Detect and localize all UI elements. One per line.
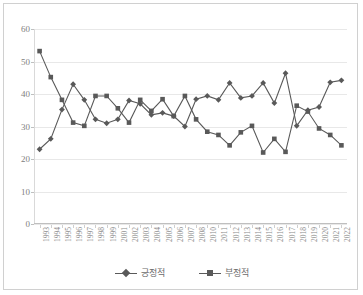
x-axis-tick-label: 2013 [244,227,252,242]
y-axis-tick-label: 20 [21,155,30,164]
y-axis-tick-label: 10 [21,187,30,196]
x-axis-tick-label: 1993 [43,227,51,242]
legend-item-negative[interactable]: 부정적 [199,268,249,278]
series-layer [34,29,347,224]
data-point-diamond [216,97,222,103]
diamond-marker-icon [115,269,137,278]
x-axis-tick-label: 1994 [54,227,62,242]
x-axis-tick-mark [218,225,219,228]
x-axis-tick-label: 2001 [121,227,129,242]
x-axis-tick-label: 2022 [344,227,352,242]
x-axis-tick-label: 2005 [166,227,174,242]
series-positive [37,70,345,152]
x-axis-tick-label: 1999 [110,227,118,242]
chart-frame: 0102030405060 19931994199519961997199819… [3,3,358,290]
x-axis-tick-label: 2011 [221,227,229,242]
x-axis-tick-mark [84,225,85,228]
data-point-square [37,49,42,54]
x-axis-tick-label: 2004 [154,227,162,242]
y-axis-tick-label: 50 [21,57,30,66]
x-axis-tick-mark [95,225,96,228]
data-point-square [283,150,288,155]
x-axis-tick-mark [252,225,253,228]
x-axis-tick-mark [163,225,164,228]
data-point-square [160,97,165,102]
data-point-square [272,137,277,142]
data-point-square [60,98,65,103]
series-negative [37,49,343,155]
data-point-square [93,94,98,99]
x-axis-tick-label: 2012 [233,227,241,242]
x-axis-tick-mark [207,225,208,228]
y-axis-tick-label: 0 [26,220,31,229]
data-point-square [261,150,266,155]
x-axis-tick-mark [73,225,74,228]
x-axis-tick-mark [319,225,320,228]
x-axis-tick-label: 2008 [199,227,207,242]
data-point-diamond [115,116,121,122]
data-point-square [250,124,255,129]
data-point-diamond [104,120,110,126]
x-axis-tick-label: 2021 [333,227,341,242]
data-point-square [71,120,76,125]
x-axis-tick-mark [230,225,231,228]
data-point-diamond [93,116,99,122]
data-point-square [149,109,154,114]
data-point-square [306,109,311,114]
data-point-square [239,130,244,135]
data-point-diamond [193,96,199,102]
y-axis-tick-label: 60 [21,25,30,34]
data-point-square [138,98,143,103]
data-point-diamond [339,77,345,83]
x-axis-tick-label: 1998 [98,227,106,242]
data-point-diamond [283,70,289,76]
data-point-diamond [316,104,322,110]
y-axis-tick-label: 40 [21,90,30,99]
x-axis-tick-label: 1997 [87,227,95,242]
data-point-square [127,120,132,125]
data-point-square [294,103,299,108]
x-axis-tick-mark [286,225,287,228]
x-axis-tick-mark [297,225,298,228]
series-line [40,73,342,149]
data-point-square [317,126,322,131]
x-axis-tick-label: 2020 [322,227,330,242]
x-axis-tick-mark [51,225,52,228]
data-point-diamond [204,93,210,99]
data-point-square [48,75,53,80]
x-axis-tick-mark [62,225,63,228]
x-axis-tick-label: 2006 [177,227,185,242]
x-axis-tick-mark [140,225,141,228]
data-point-square [116,106,121,111]
x-axis-tick-mark [330,225,331,228]
x-axis-tick-mark [341,225,342,228]
legend-item-positive[interactable]: 긍정적 [115,268,165,278]
x-axis-tick-mark [40,225,41,228]
x-axis-tick-mark [107,225,108,228]
legend-label-negative: 부정적 [225,268,249,278]
data-point-square [171,114,176,119]
data-point-square [227,143,232,148]
data-point-diamond [126,98,132,104]
x-axis-tick-label: 2002 [132,227,140,242]
legend-label-positive: 긍정적 [141,268,165,278]
data-point-square [194,117,199,122]
x-axis-tick-mark [241,225,242,228]
data-point-square [339,143,344,148]
data-point-square [205,129,210,134]
x-axis-tick-mark [129,225,130,228]
square-marker-icon [199,269,221,278]
x-axis-tick-mark [263,225,264,228]
x-axis-labels: 1993199419951996199719981999200120022003… [34,225,347,265]
x-axis-tick-mark [151,225,152,228]
x-axis-tick-label: 2018 [300,227,308,242]
x-axis-tick-label: 1996 [76,227,84,242]
chart-legend: 긍정적 부정적 [4,262,359,284]
x-axis-tick-label: 2017 [289,227,297,242]
x-axis-tick-label: 2003 [143,227,151,242]
x-axis-tick-label: 2015 [266,227,274,242]
y-axis-tick-label: 30 [21,122,30,131]
data-point-diamond [327,79,333,85]
plot-area: 0102030405060 [34,29,347,224]
x-axis-tick-mark [174,225,175,228]
